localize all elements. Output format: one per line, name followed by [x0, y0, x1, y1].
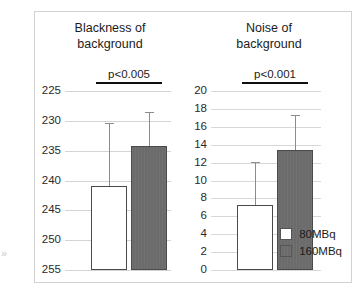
- gridline: [65, 121, 171, 122]
- legend-item-160MBq: 160MBq: [280, 243, 342, 258]
- y-axis-tick-label: 235: [31, 145, 61, 156]
- y-axis-tick-label: 10: [177, 175, 207, 186]
- gridline: [211, 145, 321, 146]
- gridline: [65, 270, 171, 271]
- legend-label-160MBq: 160MBq: [299, 245, 342, 257]
- gridline: [211, 109, 321, 110]
- panel-title-line1: Blackness of: [75, 21, 146, 35]
- legend-item-80MBq: 80MBq: [280, 226, 342, 241]
- panel-blackness: Blackness of background 2252302352402452…: [35, 12, 185, 284]
- y-axis-tick-label: 0: [177, 264, 207, 275]
- bar-160MBq: [131, 146, 167, 270]
- legend: 80MBq160MBq: [280, 226, 342, 260]
- bar-80MBq: [237, 205, 273, 270]
- error-bar-160MBq: [149, 112, 150, 146]
- y-axis-tick-label: 6: [177, 210, 207, 221]
- y-axis-tick-label: 230: [31, 115, 61, 126]
- error-bar-cap-160MBq: [291, 115, 300, 116]
- significance-annotation-noise: p<0.001: [237, 68, 313, 84]
- y-axis-tick-label: 225: [31, 85, 61, 96]
- panel-title-blackness: Blackness of background: [35, 21, 185, 52]
- p-value-label-noise: p<0.001: [237, 68, 313, 80]
- legend-label-80MBq: 80MBq: [299, 228, 335, 240]
- legend-swatch-80MBq: [280, 228, 292, 240]
- error-bar-cap-160MBq: [145, 112, 154, 113]
- y-axis-tick-label: 12: [177, 157, 207, 168]
- error-bar-cap-80MBq: [251, 162, 260, 163]
- significance-annotation-blackness: p<0.005: [91, 68, 167, 84]
- y-axis-tick-label: 4: [177, 228, 207, 239]
- significance-bar-blackness: [96, 82, 162, 84]
- plot-area-blackness: 225230235240245250255: [65, 91, 171, 270]
- significance-bar-noise: [242, 82, 308, 84]
- y-axis-tick-label: 255: [31, 264, 61, 275]
- y-axis-tick-label: 250: [31, 234, 61, 245]
- gridline: [211, 127, 321, 128]
- y-axis-tick-label: 16: [177, 121, 207, 132]
- bar-80MBq: [91, 186, 127, 270]
- error-bar-80MBq: [109, 123, 110, 187]
- gridline: [211, 91, 321, 92]
- legend-swatch-160MBq: [280, 245, 292, 257]
- gridline: [211, 270, 321, 271]
- y-axis-tick-label: 18: [177, 103, 207, 114]
- panel-title-line2: background: [77, 37, 142, 51]
- error-bar-80MBq: [255, 162, 256, 205]
- error-bar-160MBq: [295, 115, 296, 150]
- y-axis-tick-label: 2: [177, 246, 207, 257]
- y-axis-tick-label: 14: [177, 139, 207, 150]
- error-bar-cap-80MBq: [105, 123, 114, 124]
- panel-title-line2: background: [236, 37, 301, 51]
- figure-canvas: » Blackness of background 22523023524024…: [0, 0, 362, 295]
- panel-title-noise: Noise of background: [185, 21, 353, 52]
- y-axis-tick-label: 240: [31, 175, 61, 186]
- chart-frame: Blackness of background 2252302352402452…: [34, 11, 352, 283]
- p-value-label-blackness: p<0.005: [91, 68, 167, 80]
- panel-title-line1: Noise of: [246, 21, 292, 35]
- y-axis-tick-label: 20: [177, 85, 207, 96]
- edge-artifact: »: [1, 246, 10, 260]
- y-axis-tick-label: 8: [177, 192, 207, 203]
- gridline: [65, 91, 171, 92]
- y-axis-tick-label: 245: [31, 204, 61, 215]
